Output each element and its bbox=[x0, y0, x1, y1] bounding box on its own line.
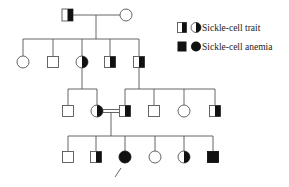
III-4-male bbox=[149, 106, 160, 117]
legend-anemia-circle-icon bbox=[191, 42, 201, 52]
legend-anemia-square-icon bbox=[178, 42, 187, 52]
IV-1-male bbox=[63, 152, 74, 163]
legend-trait-square-icon bbox=[178, 23, 187, 33]
II-3-female-trait bbox=[76, 56, 88, 68]
III-6-male-trait bbox=[210, 106, 221, 117]
II-4-male-trait bbox=[105, 57, 116, 68]
III-2-female-trait bbox=[91, 105, 103, 117]
IV-3-female-anemia-proband bbox=[119, 151, 131, 163]
IV-2-male-trait bbox=[91, 152, 102, 163]
II-1-female bbox=[17, 56, 29, 68]
III-3-male-trait bbox=[120, 106, 131, 117]
IV-4-female bbox=[149, 151, 161, 163]
IV-6-male-anemia bbox=[208, 152, 219, 163]
legend-anemia-label: Sickle-cell anemia bbox=[202, 42, 273, 52]
I-2-female bbox=[120, 9, 132, 21]
legend: Sickle-cell trait Sickle-cell anemia bbox=[178, 23, 274, 53]
II-2-male bbox=[48, 57, 59, 68]
legend-trait-label: Sickle-cell trait bbox=[202, 23, 261, 33]
pedigree-diagram: Sickle-cell trait Sickle-cell anemia bbox=[0, 0, 289, 187]
III-1-male bbox=[63, 106, 74, 117]
II-5-male-trait bbox=[134, 57, 145, 68]
IV-5-female-trait bbox=[178, 151, 190, 163]
III-5-female bbox=[178, 105, 190, 117]
I-1-male-trait bbox=[62, 9, 73, 21]
legend-trait-circle-icon bbox=[191, 23, 201, 33]
